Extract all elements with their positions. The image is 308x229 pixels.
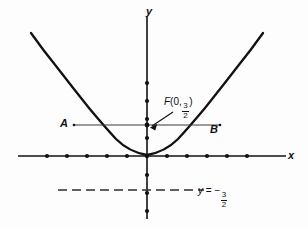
point-a-marker	[73, 124, 76, 127]
directrix-label-equals: = −	[206, 185, 220, 196]
directrix-label-fraction: 32	[221, 191, 227, 208]
focus-fraction-numerator: 3	[182, 102, 188, 110]
figure-canvas	[0, 0, 308, 229]
directrix-label-variable: y	[198, 185, 203, 196]
point-b-label: B	[210, 124, 218, 135]
directrix-fraction-denominator: 2	[221, 200, 227, 209]
directrix-fraction-numerator: 3	[221, 191, 227, 199]
point-a-label: A	[60, 118, 68, 129]
focus-label-fraction: 32	[182, 102, 188, 119]
point-b-marker	[219, 124, 222, 127]
directrix-label: y = −32	[198, 186, 228, 209]
focus-label: F(0,32)	[164, 97, 193, 120]
x-axis-label: x	[288, 150, 294, 161]
focus-fraction-denominator: 2	[182, 111, 188, 120]
focus-label-abscissa: 0,	[173, 96, 181, 107]
parabola-figure: y x A B F(0,32) y = −32	[0, 0, 308, 229]
y-axis-label: y	[146, 6, 152, 17]
focus-point	[145, 123, 150, 128]
focus-label-close-paren: )	[189, 96, 192, 107]
